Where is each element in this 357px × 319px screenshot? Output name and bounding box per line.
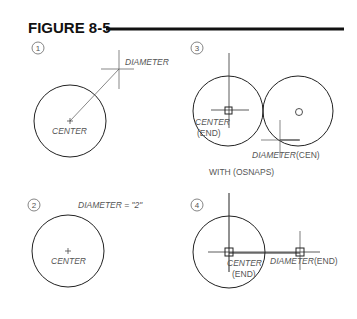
center-label: CENTER: [52, 126, 87, 136]
center-snap-marker-icon: [296, 109, 303, 116]
diameter-label: DIAMETER: [252, 150, 296, 160]
diameter-label: DIAMETER: [125, 57, 169, 67]
center-snap-label: (END): [197, 128, 221, 138]
panel-1: 1 DIAMETER CENTER: [32, 42, 169, 157]
figure-title: FIGURE 8-5: [28, 19, 111, 36]
panel-2: 2 CENTER DIAMETER = "2": [28, 199, 143, 287]
diameter-value-label: DIAMETER = "2": [78, 200, 143, 210]
panel-3: 3 CENTER (END) DIAMETER (CEN) WITH (OSNA…: [191, 42, 333, 177]
diameter-snap-label: (CEN): [296, 150, 320, 160]
center-label: CENTER: [227, 258, 262, 268]
osnaps-caption: WITH (OSNAPS): [209, 167, 274, 177]
center-label: CENTER: [195, 117, 230, 127]
diameter-snap-label: (END): [314, 256, 338, 266]
panel-number: 2: [32, 201, 37, 210]
panel-number: 3: [195, 44, 200, 53]
endpoint-snap-box-icon: [225, 107, 232, 114]
center-snap-label: (END): [232, 269, 256, 279]
panel-number: 1: [36, 44, 41, 53]
figure-canvas: FIGURE 8-5 1 DIAMETER CENTER 3 CENTER (E…: [0, 0, 357, 319]
circle-right: [263, 76, 333, 146]
panel-4: 4 CENTER (END) DIAMETER (END): [191, 193, 338, 288]
diameter-label: DIAMETER: [270, 256, 314, 266]
center-label: CENTER: [51, 256, 86, 266]
radius-line: [70, 69, 119, 121]
panel-number: 4: [195, 201, 200, 210]
